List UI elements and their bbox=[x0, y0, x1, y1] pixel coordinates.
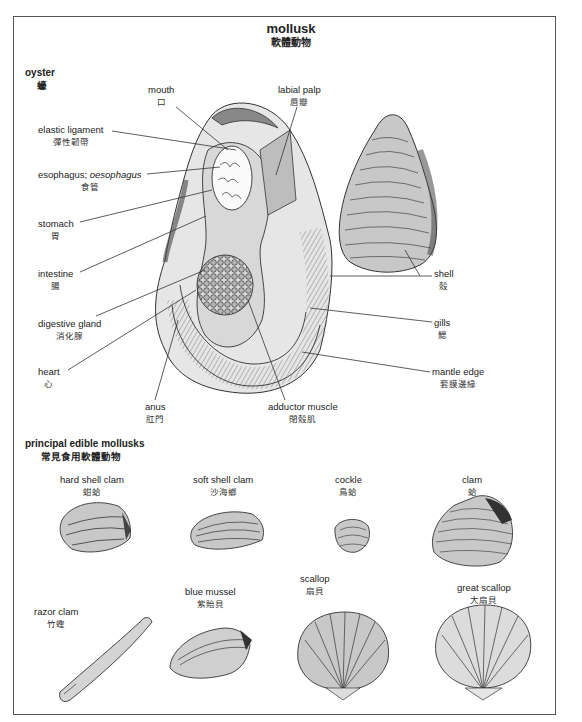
label-intestine-en: intestine bbox=[38, 268, 73, 280]
label-shell-en: shell bbox=[434, 268, 454, 280]
soft-shell-clam-en: soft shell clam bbox=[193, 474, 253, 486]
label-heart: heart 心 bbox=[38, 366, 60, 390]
edible-heading: principal edible mollusks 常見食用軟體動物 bbox=[25, 437, 144, 463]
oyster-anatomy-illustration bbox=[156, 103, 332, 393]
label-clam: clam 蛤 bbox=[462, 474, 482, 498]
label-hard-shell-clam: hard shell clam 蚶蛤 bbox=[60, 474, 124, 498]
label-cockle: cockle 鳥蛤 bbox=[335, 474, 362, 498]
label-mouth-en: mouth bbox=[148, 84, 174, 96]
hard-shell-clam-en: hard shell clam bbox=[60, 474, 124, 486]
label-gills: gills 鰓 bbox=[434, 317, 450, 341]
label-elastic-ligament: elastic ligament 彈性韌帶 bbox=[38, 124, 103, 148]
label-shell-zh: 殼 bbox=[434, 280, 454, 292]
oyster-shell-illustration bbox=[339, 115, 436, 272]
label-razor-clam: razor clam 竹蟶 bbox=[34, 606, 78, 630]
label-shell: shell 殼 bbox=[434, 268, 454, 292]
clam-illustration bbox=[432, 496, 512, 566]
cockle-illustration bbox=[335, 519, 370, 552]
label-scallop: scallop 扇貝 bbox=[300, 573, 330, 597]
label-elastic-ligament-zh: 彈性韌帶 bbox=[38, 136, 103, 148]
label-digestive-gland: digestive gland 消化腺 bbox=[38, 318, 101, 342]
label-esophagus-en: esophagus; bbox=[38, 169, 87, 180]
label-labial-palp-en: labial palp bbox=[278, 84, 321, 96]
label-elastic-ligament-en: elastic ligament bbox=[38, 124, 103, 136]
great-scallop-illustration bbox=[436, 605, 531, 700]
razor-clam-illustration bbox=[60, 618, 152, 702]
soft-shell-clam-zh: 沙海螂 bbox=[193, 486, 253, 498]
label-stomach: stomach 胃 bbox=[38, 218, 74, 242]
label-adductor-muscle: adductor muscle 閉殼肌 bbox=[268, 401, 338, 425]
label-mouth-zh: 口 bbox=[148, 96, 174, 108]
clam-zh: 蛤 bbox=[462, 486, 482, 498]
label-esophagus: esophagus; oesophagus 食管 bbox=[38, 169, 142, 193]
label-heart-en: heart bbox=[38, 366, 60, 378]
blue-mussel-zh: 紫貽貝 bbox=[185, 598, 236, 610]
great-scallop-zh: 大扇貝 bbox=[457, 594, 511, 606]
label-stomach-en: stomach bbox=[38, 218, 74, 230]
label-mantle-edge: mantle edge 套膜邊緣 bbox=[432, 366, 484, 390]
label-labial-palp-zh: 唇瓣 bbox=[278, 96, 321, 108]
clam-en: clam bbox=[462, 474, 482, 486]
label-intestine-zh: 腸 bbox=[38, 280, 73, 292]
label-soft-shell-clam: soft shell clam 沙海螂 bbox=[193, 474, 253, 498]
cockle-en: cockle bbox=[335, 474, 362, 486]
label-digestive-gland-en: digestive gland bbox=[38, 318, 101, 330]
hard-shell-clam-illustration bbox=[60, 503, 131, 552]
label-stomach-zh: 胃 bbox=[38, 230, 74, 242]
illustrations bbox=[0, 0, 582, 722]
edible-heading-en: principal edible mollusks bbox=[25, 438, 144, 449]
label-intestine: intestine 腸 bbox=[38, 268, 73, 292]
label-labial-palp: labial palp 唇瓣 bbox=[278, 84, 321, 108]
soft-shell-clam-illustration bbox=[191, 512, 264, 549]
label-mantle-edge-zh: 套膜邊緣 bbox=[432, 378, 484, 390]
label-anus: anus 肛門 bbox=[145, 401, 166, 425]
scallop-illustration bbox=[298, 612, 389, 700]
razor-clam-en: razor clam bbox=[34, 606, 78, 618]
great-scallop-en: great scallop bbox=[457, 582, 511, 594]
label-gills-zh: 鰓 bbox=[434, 329, 450, 341]
label-blue-mussel: blue mussel 紫貽貝 bbox=[185, 586, 236, 610]
cockle-zh: 鳥蛤 bbox=[335, 486, 362, 498]
label-anus-en: anus bbox=[145, 401, 166, 413]
label-esophagus-zh: 食管 bbox=[38, 181, 142, 193]
scallop-zh: 扇貝 bbox=[300, 585, 330, 597]
label-gills-en: gills bbox=[434, 317, 450, 329]
label-anus-zh: 肛門 bbox=[145, 413, 166, 425]
label-adductor-muscle-en: adductor muscle bbox=[268, 401, 338, 413]
blue-mussel-en: blue mussel bbox=[185, 586, 236, 598]
blue-mussel-illustration bbox=[170, 628, 252, 678]
hard-shell-clam-zh: 蚶蛤 bbox=[60, 486, 124, 498]
scallop-en: scallop bbox=[300, 573, 330, 585]
edible-heading-zh: 常見食用軟體動物 bbox=[25, 450, 144, 463]
label-mouth: mouth 口 bbox=[148, 84, 174, 108]
label-digestive-gland-zh: 消化腺 bbox=[38, 330, 101, 342]
label-adductor-muscle-zh: 閉殼肌 bbox=[268, 413, 338, 425]
label-mantle-edge-en: mantle edge bbox=[432, 366, 484, 378]
label-heart-zh: 心 bbox=[38, 378, 60, 390]
label-great-scallop: great scallop 大扇貝 bbox=[457, 582, 511, 606]
label-esophagus-alt: oesophagus bbox=[90, 169, 142, 180]
razor-clam-zh: 竹蟶 bbox=[34, 618, 78, 630]
